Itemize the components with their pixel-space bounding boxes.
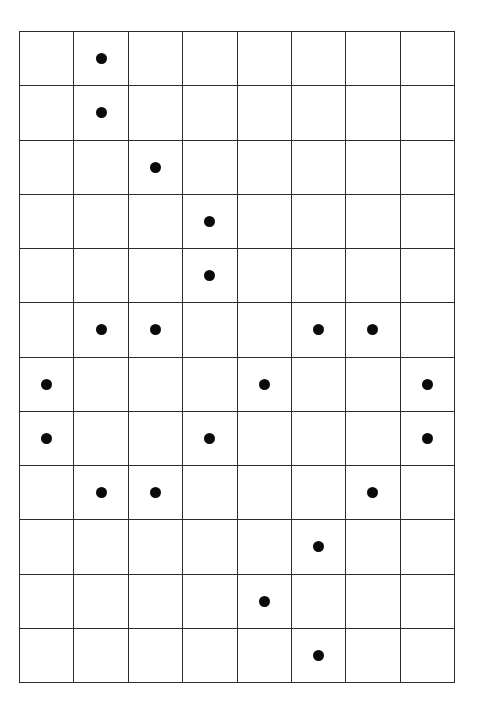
grid-cell-marked[interactable] [74,466,128,520]
grid-cell-empty[interactable] [128,86,182,140]
grid-cell-empty[interactable] [400,574,454,628]
grid-cell-empty[interactable] [346,628,400,682]
grid-cell-content [346,249,399,302]
grid-cell-empty[interactable] [128,357,182,411]
grid-cell-empty[interactable] [74,249,128,303]
grid-cell-empty[interactable] [400,520,454,574]
grid-cell-marked[interactable] [20,411,74,465]
grid-cell-empty[interactable] [183,357,237,411]
grid-cell-empty[interactable] [183,520,237,574]
grid-cell-empty[interactable] [128,411,182,465]
grid-cell-empty[interactable] [400,628,454,682]
grid-cell-empty[interactable] [74,194,128,248]
grid-cell-empty[interactable] [20,249,74,303]
grid-cell-empty[interactable] [237,194,291,248]
grid-cell-empty[interactable] [128,194,182,248]
grid-cell-empty[interactable] [74,411,128,465]
grid-cell-empty[interactable] [291,466,345,520]
grid-cell-marked[interactable] [183,249,237,303]
grid-cell-empty[interactable] [183,32,237,86]
grid-cell-empty[interactable] [128,574,182,628]
grid-cell-empty[interactable] [20,140,74,194]
grid-cell-empty[interactable] [237,86,291,140]
grid-cell-marked[interactable] [291,628,345,682]
dot-grid-figure [19,31,455,683]
grid-cell-empty[interactable] [291,574,345,628]
grid-cell-empty[interactable] [346,357,400,411]
grid-cell-marked[interactable] [128,140,182,194]
grid-cell-empty[interactable] [400,86,454,140]
grid-cell-empty[interactable] [20,32,74,86]
grid-cell-empty[interactable] [346,520,400,574]
grid-cell-empty[interactable] [128,249,182,303]
grid-cell-empty[interactable] [400,466,454,520]
grid-cell-empty[interactable] [74,357,128,411]
grid-cell-empty[interactable] [183,86,237,140]
grid-cell-empty[interactable] [237,249,291,303]
grid-cell-empty[interactable] [291,32,345,86]
grid-cell-marked[interactable] [291,520,345,574]
grid-cell-empty[interactable] [20,194,74,248]
grid-cell-empty[interactable] [400,140,454,194]
grid-cell-empty[interactable] [183,628,237,682]
grid-cell-empty[interactable] [20,574,74,628]
grid-cell-marked[interactable] [128,466,182,520]
grid-cell-marked[interactable] [346,466,400,520]
grid-cell-marked[interactable] [74,303,128,357]
grid-cell-empty[interactable] [237,520,291,574]
grid-cell-marked[interactable] [183,194,237,248]
grid-cell-empty[interactable] [346,249,400,303]
grid-cell-empty[interactable] [20,466,74,520]
grid-cell-empty[interactable] [183,466,237,520]
grid-cell-empty[interactable] [291,194,345,248]
grid-cell-empty[interactable] [183,303,237,357]
grid-cell-empty[interactable] [346,194,400,248]
grid-cell-marked[interactable] [183,411,237,465]
grid-cell-marked[interactable] [20,357,74,411]
grid-cell-marked[interactable] [237,357,291,411]
grid-cell-empty[interactable] [346,140,400,194]
grid-cell-empty[interactable] [183,140,237,194]
grid-cell-empty[interactable] [74,574,128,628]
grid-cell-empty[interactable] [291,86,345,140]
grid-cell-empty[interactable] [237,628,291,682]
grid-cell-empty[interactable] [237,32,291,86]
grid-cell-empty[interactable] [400,249,454,303]
grid-cell-marked[interactable] [400,411,454,465]
grid-cell-empty[interactable] [346,32,400,86]
grid-cell-empty[interactable] [20,628,74,682]
grid-cell-marked[interactable] [74,32,128,86]
grid-cell-empty[interactable] [346,411,400,465]
grid-cell-marked[interactable] [291,303,345,357]
grid-cell-empty[interactable] [128,520,182,574]
grid-cell-empty[interactable] [237,466,291,520]
grid-cell-empty[interactable] [74,628,128,682]
grid-cell-empty[interactable] [291,357,345,411]
grid-cell-marked[interactable] [237,574,291,628]
grid-cell-content [20,303,73,356]
grid-cell-empty[interactable] [237,303,291,357]
grid-cell-empty[interactable] [291,411,345,465]
grid-cell-marked[interactable] [74,86,128,140]
grid-cell-empty[interactable] [128,628,182,682]
grid-cell-empty[interactable] [400,32,454,86]
grid-cell-empty[interactable] [20,86,74,140]
grid-cell-marked[interactable] [128,303,182,357]
grid-cell-content [20,141,73,194]
grid-cell-empty[interactable] [20,520,74,574]
grid-cell-empty[interactable] [400,303,454,357]
grid-cell-empty[interactable] [128,32,182,86]
grid-cell-empty[interactable] [74,520,128,574]
grid-cell-marked[interactable] [400,357,454,411]
grid-cell-empty[interactable] [400,194,454,248]
grid-cell-marked[interactable] [346,303,400,357]
grid-cell-empty[interactable] [346,86,400,140]
grid-cell-empty[interactable] [237,140,291,194]
grid-cell-empty[interactable] [20,303,74,357]
grid-cell-empty[interactable] [74,140,128,194]
grid-cell-empty[interactable] [346,574,400,628]
grid-cell-empty[interactable] [291,249,345,303]
grid-cell-empty[interactable] [291,140,345,194]
grid-cell-empty[interactable] [237,411,291,465]
grid-cell-empty[interactable] [183,574,237,628]
